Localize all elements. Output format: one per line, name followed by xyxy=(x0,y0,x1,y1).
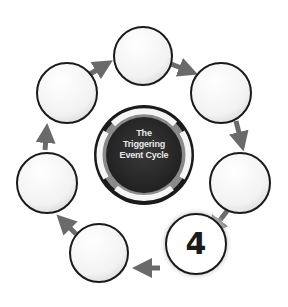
arrow-icon xyxy=(171,64,184,69)
node-upper-left xyxy=(37,63,97,123)
diagram-title: The Triggering Event Cycle xyxy=(104,128,184,161)
title-line: The xyxy=(104,128,184,139)
arrow-icon xyxy=(90,68,100,74)
title-line: Event Cycle xyxy=(104,150,184,161)
node-top xyxy=(114,27,172,85)
node-top-right xyxy=(191,63,251,123)
step-number: 4 xyxy=(176,224,216,264)
arrow-icon xyxy=(236,121,240,137)
arrow-icon xyxy=(67,225,76,234)
node-left xyxy=(17,153,77,213)
node-bottom-left xyxy=(70,224,128,282)
node-right xyxy=(210,153,270,213)
title-line: Triggering xyxy=(104,139,184,150)
arrow-icon xyxy=(45,138,46,150)
